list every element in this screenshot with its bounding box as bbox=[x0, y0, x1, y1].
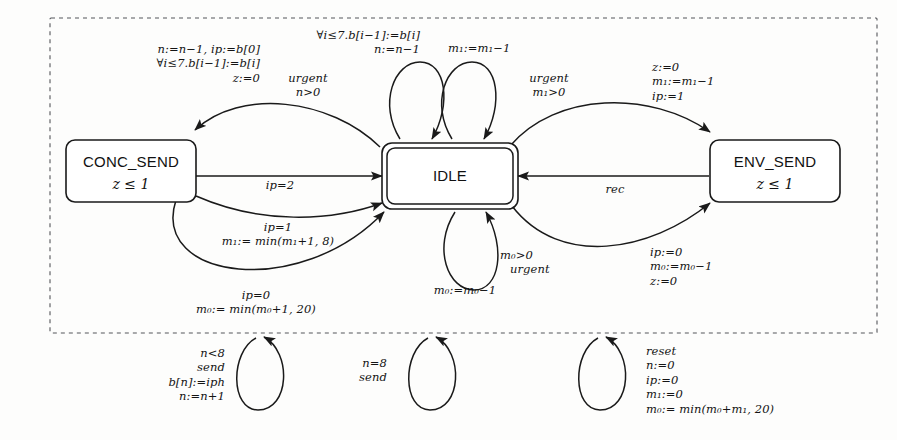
edge-label-line: ip:=1 bbox=[652, 89, 802, 103]
state-conc-send[interactable]: CONC_SEND z ≤ 1 bbox=[66, 140, 196, 202]
edge-label-line: z:=0 bbox=[650, 274, 790, 288]
state-conc-send-invariant: z ≤ 1 bbox=[112, 176, 150, 192]
edge-label-line: n>0 bbox=[268, 85, 348, 99]
diagram-canvas: CONC_SEND z ≤ 1 IDLE ENV_SEND z ≤ 1 n:=n… bbox=[0, 0, 897, 440]
edge-label-line: ip=1 bbox=[178, 220, 378, 234]
edge-label-outer-loop-send-n-lt-8: n<8 send b[n]:=iph n:=n+1 bbox=[85, 346, 225, 404]
edge-label-line: n:=n−1, ip:=b[0] bbox=[40, 42, 260, 56]
edge-label-line: reset bbox=[646, 344, 876, 358]
edge-outer-loop-send-n-eq-8 bbox=[409, 337, 456, 410]
edge-label-line: m₀:= min(m₀+m₁, 20) bbox=[646, 402, 876, 416]
edge-label-line: urgent bbox=[510, 71, 588, 85]
edge-label-idle-loop-m0: m₀>0 urgent bbox=[500, 248, 590, 277]
edge-label-line: ∀i≤7.b[i−1]:=b[i] bbox=[235, 28, 420, 42]
edge-label-line: send bbox=[85, 360, 225, 374]
edge-conc-send-to-idle-ip1 bbox=[196, 196, 382, 217]
edge-label-outer-loop-send-n-eq-8: n=8 send bbox=[282, 356, 387, 385]
edge-label-idle-to-env-send-lower: ip:=0 m₀:=m₀−1 z:=0 bbox=[650, 245, 790, 288]
edge-idle-loop-m0 bbox=[444, 212, 498, 290]
state-idle[interactable]: IDLE bbox=[382, 143, 518, 209]
edge-label-line: ip=2 bbox=[245, 178, 315, 192]
state-conc-send-label: CONC_SEND bbox=[83, 153, 179, 170]
edge-label-line: m₁>0 bbox=[510, 85, 588, 99]
state-env-send-invariant: z ≤ 1 bbox=[756, 176, 794, 192]
edge-label-line: urgent bbox=[500, 262, 590, 276]
edge-label-line: b[n]:=iph bbox=[85, 375, 225, 389]
edge-idle-loop-n bbox=[390, 62, 444, 139]
edge-label-line: ip:=0 bbox=[646, 373, 876, 387]
edge-idle-to-env-send bbox=[510, 103, 710, 146]
edge-label-line: ip=0 bbox=[148, 288, 364, 302]
edge-label-line: ∀i≤7.b[i−1]:=b[i] bbox=[40, 56, 260, 70]
edge-label-idle-loop-m1: m₁:=m₁−1 bbox=[448, 41, 588, 55]
edge-label-idle-to-env-send: z:=0 m₁:=m₁−1 ip:=1 bbox=[652, 60, 802, 103]
edge-label-env-send-to-idle-rec: rec bbox=[585, 182, 645, 196]
edge-label-idle-loop-m0-assign: m₀:=m₀−1 bbox=[400, 283, 530, 297]
edge-label-line: n:=0 bbox=[646, 358, 876, 372]
edge-label-line: rec bbox=[585, 182, 645, 196]
edge-label-outer-loop-reset: reset n:=0 ip:=0 m₁:=0 m₀:= min(m₀+m₁, 2… bbox=[646, 344, 876, 416]
edge-label-line: z:=0 bbox=[40, 71, 260, 85]
edge-label-idle-loop-n: ∀i≤7.b[i−1]:=b[i] n:=n−1 bbox=[235, 28, 420, 57]
edge-label-line: ip:=0 bbox=[650, 245, 790, 259]
edge-label-conc-send-to-idle-ip0: ip=0 m₀:= min(m₀+1, 20) bbox=[148, 288, 364, 317]
edge-label-conc-send-to-idle-ip2: ip=2 bbox=[245, 178, 315, 192]
edge-label-line: m₁:=m₁−1 bbox=[448, 41, 588, 55]
edge-outer-loop-reset bbox=[579, 337, 626, 410]
edge-label-idle-loop-urgent-m1: urgent m₁>0 bbox=[510, 71, 588, 100]
edge-label-line: n:=n−1 bbox=[235, 42, 420, 56]
edge-label-idle-to-conc-send: n:=n−1, ip:=b[0] ∀i≤7.b[i−1]:=b[i] z:=0 bbox=[40, 42, 260, 85]
edge-outer-loop-send-n-lt-8 bbox=[237, 337, 284, 410]
state-idle-label: IDLE bbox=[433, 167, 467, 184]
edge-label-line: m₀>0 bbox=[500, 248, 590, 262]
state-env-send[interactable]: ENV_SEND z ≤ 1 bbox=[710, 140, 840, 202]
edge-idle-to-env-send-lower bbox=[512, 203, 710, 246]
edge-label-line: urgent bbox=[268, 71, 348, 85]
edge-idle-loop-m1 bbox=[442, 62, 496, 139]
edge-label-line: z:=0 bbox=[652, 60, 802, 74]
edge-label-line: m₀:= min(m₀+1, 20) bbox=[148, 302, 364, 316]
state-env-send-label: ENV_SEND bbox=[734, 153, 816, 170]
edge-label-line: n<8 bbox=[85, 346, 225, 360]
edge-label-idle-loop-urgent-n: urgent n>0 bbox=[268, 71, 348, 100]
edge-idle-to-conc-send bbox=[195, 104, 380, 147]
edge-label-line: m₀:=m₀−1 bbox=[650, 259, 790, 273]
edge-label-line: send bbox=[282, 370, 387, 384]
edge-label-line: m₁:=m₁−1 bbox=[652, 74, 802, 88]
edge-label-line: m₀:=m₀−1 bbox=[400, 283, 530, 297]
edge-label-line: m₁:= min(m₁+1, 8) bbox=[178, 234, 378, 248]
edge-label-line: m₁:=0 bbox=[646, 387, 876, 401]
edge-label-line: n=8 bbox=[282, 356, 387, 370]
edge-label-line: n:=n+1 bbox=[85, 389, 225, 403]
edge-label-conc-send-to-idle-ip1: ip=1 m₁:= min(m₁+1, 8) bbox=[178, 220, 378, 249]
